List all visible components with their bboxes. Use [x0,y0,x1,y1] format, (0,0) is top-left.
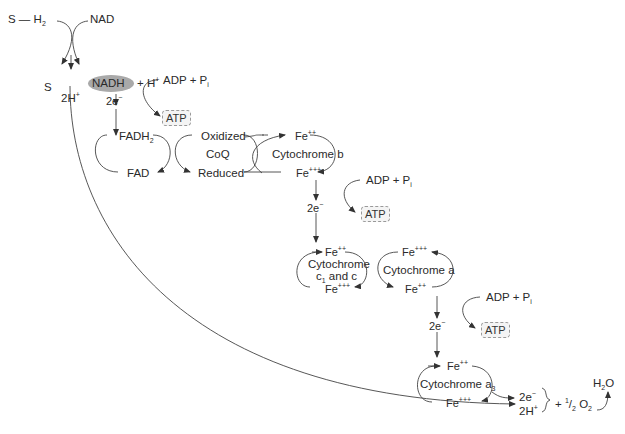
atp-badge-2: ATP [361,206,390,222]
electrons-label-2: 2e− [307,202,323,214]
protons-top-label: 2H+ [61,92,80,104]
final-electrons-label: 2e− [519,391,536,403]
cyt-c-fe3-label: Fe+++ [325,283,350,295]
cyt-c-label-line2: c1 and c [316,270,357,282]
substrate-oxidized-label: S [44,81,52,93]
cyt-a-fe2-label: Fe++ [405,283,426,295]
fadh2-label: FADH2 [119,130,154,142]
cyt-c-label-line1: Cytochrome [308,258,370,270]
cyt-a-fe3-label: Fe+++ [402,246,427,258]
atp-badge-3: ATP [481,322,510,338]
water-label: H2O [593,377,614,389]
cyt-a-label: Cytochrome a [383,264,455,276]
cyt-b-label: Cytochrome b [272,148,344,160]
adp-label-1: ADP + Pi [163,74,209,86]
coq-label: CoQ [206,148,230,160]
nadh-label: NADH [92,77,125,89]
oxygen-label: + 1/2 O2 [555,398,592,410]
electrons-label-3: 2e− [429,320,445,332]
coq-oxidized-label: Oxidized [201,130,246,142]
cyt-a3-label: Cytochrome a3 [420,378,496,390]
adp-label-2: ADP + Pi [366,174,412,186]
cyt-a3-fe2-label: Fe++ [447,360,468,372]
cyt-b-fe3-label: Fe+++ [296,167,321,179]
electrons-label-1: 2e− [106,95,122,107]
diagram-arrows [0,0,625,434]
cyt-c-fe2-label: Fe++ [325,246,346,258]
final-protons-label: 2H+ [519,405,538,417]
cyt-a3-fe3-label: Fe+++ [446,397,471,409]
adp-label-3: ADP + Pi [486,291,532,303]
atp-badge-1: ATP [162,110,191,126]
h-plus-label: + H+ [137,77,159,89]
coq-reduced-label: Reduced [198,167,244,179]
nad-label: NAD [90,13,114,25]
fad-label: FAD [127,167,149,179]
cyt-b-fe2-label: Fe++ [295,130,316,142]
substrate-reduced-label: S — H2 [8,13,46,25]
